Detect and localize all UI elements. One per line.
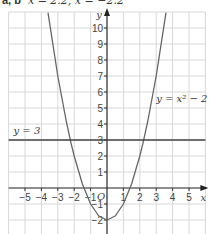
line-label: y = 3 <box>13 125 41 136</box>
y-tick-label: 1 <box>97 167 103 178</box>
y-tick-label: 6 <box>97 87 103 98</box>
x-tick-label: 5 <box>186 192 192 203</box>
x-tick-label: 2 <box>137 192 143 203</box>
y-tick-label: 5 <box>97 103 103 114</box>
y-tick-label: −2 <box>92 215 104 226</box>
parabola-label: y = x² − 2 <box>155 93 207 104</box>
y-tick-label: 10 <box>92 23 104 34</box>
graph: −5−4−3−2−112345−2−112345678910Oxyy = x² … <box>0 0 210 234</box>
x-tick-label: −4 <box>36 192 48 203</box>
y-tick-label: 9 <box>97 39 103 50</box>
x-tick-label: −5 <box>19 192 31 203</box>
y-axis-label: y <box>95 9 102 20</box>
y-tick-label: 4 <box>97 119 103 130</box>
x-tick-label: −2 <box>68 192 80 203</box>
x-tick-label: −3 <box>52 192 64 203</box>
y-tick-label: 7 <box>97 71 103 82</box>
x-axis-label: x <box>201 192 207 203</box>
y-tick-label: 2 <box>97 151 103 162</box>
y-tick-label: 8 <box>97 55 103 66</box>
origin-label: O <box>97 191 105 202</box>
x-tick-label: 4 <box>170 192 176 203</box>
x-axis-arrow-icon <box>200 185 208 191</box>
x-tick-label: 3 <box>153 192 159 203</box>
